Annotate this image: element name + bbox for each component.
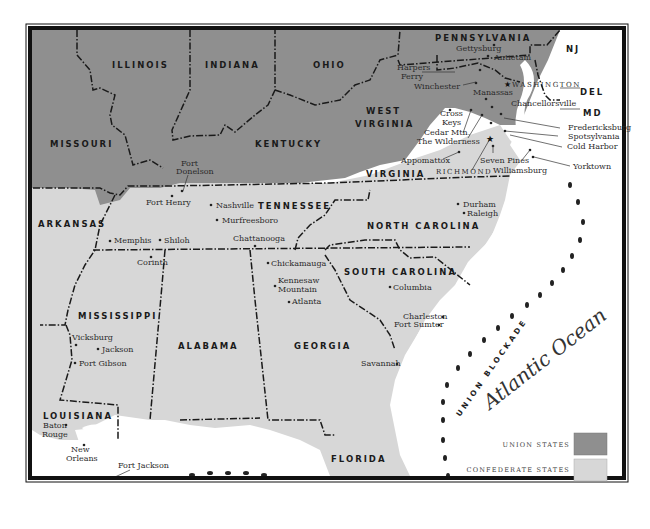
label-harpers-ferry-2: Ferry [401, 72, 423, 81]
label-atlanta: Atlanta [291, 297, 322, 306]
label-kennesaw-1: Kennesaw [278, 276, 319, 285]
label-richmond: RICHMOND [436, 168, 492, 176]
state-label-georgia: GEORGIA [294, 341, 351, 351]
label-fort-sumter: Fort Sumter [394, 320, 444, 329]
label-fort-henry: Fort Henry [146, 198, 191, 207]
legend-union-label: UNION STATES [502, 441, 570, 449]
label-fort-donelson-2: Donelson [176, 167, 214, 176]
legend-union-swatch [574, 433, 607, 455]
legend-confederate-swatch [574, 459, 607, 481]
state-label-west-virginia-1: WEST [366, 106, 401, 116]
label-williamsburg: Williamsburg [493, 166, 547, 175]
state-label-florida: FLORIDA [331, 454, 387, 464]
label-new-orleans-2: Orleans [66, 454, 98, 463]
label-kennesaw-2: Mountain [278, 285, 317, 294]
state-label-illinois: ILLINOIS [112, 60, 169, 70]
label-appomattox: Appomattox [400, 156, 450, 165]
label-chattanooga: Chattanooga [233, 234, 285, 243]
label-port-gibson: Port Gibson [79, 359, 127, 368]
label-cedar-mtn: Cedar Mtn. [424, 128, 470, 137]
label-harpers-ferry-1: Harpers [397, 63, 430, 72]
label-winchester: Winchester [414, 82, 460, 91]
state-label-pennsylvania: PENNSYLVANIA [435, 33, 531, 43]
legend-confederate-label: CONFEDERATE STATES [467, 466, 571, 474]
label-nashville: Nashville [216, 201, 254, 210]
label-antietam: Antietam [493, 53, 531, 62]
state-label-alabama: ALABAMA [178, 341, 239, 351]
label-cold-harbor: Cold Harbor [567, 142, 618, 151]
state-label-tennessee: TENNESSEE [258, 201, 331, 211]
label-spotsylvania: Spotsylvania [568, 132, 620, 141]
label-columbia: Columbia [393, 283, 432, 292]
label-cross-keys-2: Keys [442, 118, 461, 127]
label-chancellorsville: Chancellorsville [511, 99, 576, 108]
state-label-mississippi: MISSISSIPPI [78, 311, 157, 321]
state-label-north-carolina: NORTH CAROLINA [367, 221, 480, 231]
state-label-nj: NJ [566, 44, 580, 54]
state-label-louisiana: LOUISIANA [43, 411, 113, 421]
label-manassas: Manassas [473, 88, 513, 97]
label-savannah: Savannah [361, 359, 401, 368]
state-label-indiana: INDIANA [205, 60, 260, 70]
label-shiloh: Shiloh [164, 236, 190, 245]
label-jackson: Jackson [101, 345, 133, 354]
state-label-ohio: OHIO [313, 60, 346, 70]
label-washington: WASHINGTON [512, 81, 581, 89]
label-memphis: Memphis [114, 236, 151, 245]
label-cross-keys-1: Cross [440, 109, 463, 118]
label-durham: Durham [463, 200, 496, 209]
state-label-md: MD [583, 108, 603, 118]
richmond-star-icon: ★ [486, 134, 494, 144]
label-new-orleans-1: New [71, 445, 90, 454]
state-label-arkansas: ARKANSAS [38, 219, 106, 229]
label-vicksburg: Vicksburg [71, 333, 113, 342]
state-label-virginia: VIRGINIA [366, 169, 425, 179]
label-baton-rouge-1: Baton [43, 421, 67, 430]
label-fort-jackson: Fort Jackson [118, 461, 169, 470]
label-baton-rouge-2: Rouge [42, 430, 68, 439]
label-corinth: Corinth [137, 258, 168, 267]
label-wilderness: The Wilderness [417, 137, 480, 146]
label-gettysburg: Gettysburg [456, 44, 501, 53]
label-raleigh: Raleigh [467, 209, 498, 218]
state-label-west-virginia-2: VIRGINIA [355, 119, 414, 129]
label-seven-pines: Seven Pines [480, 156, 529, 165]
state-label-kentucky: KENTUCKY [255, 139, 322, 149]
label-chickamauga: Chickamauga [271, 259, 327, 268]
state-label-missouri: MISSOURI [50, 139, 113, 149]
state-label-del: DEL [580, 87, 604, 97]
state-label-south-carolina: SOUTH CAROLINA [344, 267, 457, 277]
label-yorktown: Yorktown [572, 162, 611, 171]
label-murfreesboro: Murfreesboro [222, 216, 278, 225]
label-fredericksburg: Fredericksburg [568, 123, 631, 132]
civil-war-map: ★ ★ ILLINOIS INDIANA OHIO PENNSYLVANIA N… [0, 0, 650, 529]
